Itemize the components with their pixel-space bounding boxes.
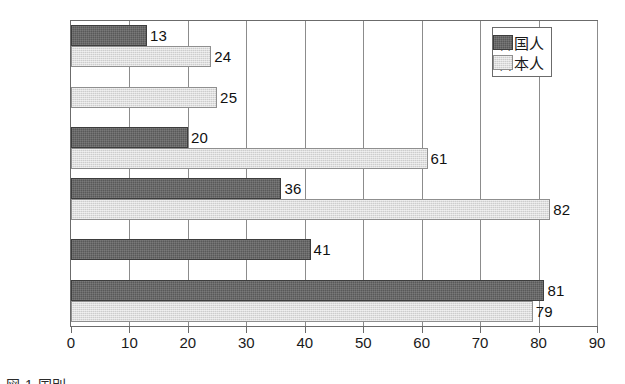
bar xyxy=(71,127,188,148)
bar-value-label: 61 xyxy=(431,148,448,169)
x-tick xyxy=(71,327,72,333)
x-tick-label: 10 xyxy=(121,334,138,351)
x-tick-label: 90 xyxy=(589,334,606,351)
category-label-5: 北朝鮮 xyxy=(0,291,63,315)
bar-group: 3682 xyxy=(71,174,597,225)
bar-group: 41 xyxy=(71,224,597,275)
bar xyxy=(71,199,550,220)
category-label-0: 米国 xyxy=(0,36,63,60)
bar xyxy=(71,301,533,322)
bar xyxy=(71,87,217,108)
bar-group: 2061 xyxy=(71,123,597,174)
bar-value-label: 41 xyxy=(314,239,331,260)
category-label-2: ロシア xyxy=(0,138,63,162)
bar-value-label: 82 xyxy=(553,199,570,220)
bar xyxy=(71,280,544,301)
bar-value-label: 25 xyxy=(220,87,237,108)
bar-value-label: 24 xyxy=(214,46,231,67)
x-tick xyxy=(363,327,364,333)
bar xyxy=(71,148,428,169)
bar xyxy=(71,178,281,199)
x-tick-label: 0 xyxy=(67,334,75,351)
legend: 韓国人 日本人 xyxy=(492,27,552,77)
bar xyxy=(71,46,211,67)
x-tick-label: 40 xyxy=(296,334,313,351)
bar xyxy=(71,239,311,260)
legend-swatch-japanese xyxy=(493,55,513,70)
x-tick-label: 30 xyxy=(238,334,255,351)
bar-value-label: 36 xyxy=(284,178,301,199)
bar-value-label: 20 xyxy=(191,127,208,148)
bar-group: 25 xyxy=(71,72,597,123)
x-tick xyxy=(480,327,481,333)
category-label-3: 中国 xyxy=(0,189,63,213)
x-tick-label: 20 xyxy=(180,334,197,351)
legend-item: 日本人 xyxy=(498,52,545,72)
x-tick xyxy=(246,327,247,333)
x-tick xyxy=(305,327,306,333)
bar-value-label: 79 xyxy=(536,301,553,322)
x-tick xyxy=(539,327,540,333)
x-tick-label: 70 xyxy=(472,334,489,351)
x-tick xyxy=(188,327,189,333)
category-label-4: 日本 xyxy=(0,240,63,264)
bar-value-label: 81 xyxy=(547,280,564,301)
legend-swatch-korean xyxy=(493,35,513,50)
x-tick xyxy=(422,327,423,333)
category-label-1: 韓国 xyxy=(0,87,63,111)
legend-item: 韓国人 xyxy=(498,32,545,52)
x-tick-label: 60 xyxy=(413,334,430,351)
x-tick-label: 50 xyxy=(355,334,372,351)
x-tick xyxy=(597,327,598,333)
x-tick-label: 80 xyxy=(530,334,547,351)
x-tick xyxy=(129,327,130,333)
bar-value-label: 13 xyxy=(150,25,167,46)
bar-chart: 13242520613682418179 米国韓国ロシア中国日本北朝鮮 0102… xyxy=(0,0,625,384)
figure-caption: 図 1 国別 xyxy=(6,374,67,384)
bar xyxy=(71,25,147,46)
bar-group: 8179 xyxy=(71,275,597,326)
gridline xyxy=(597,21,598,326)
